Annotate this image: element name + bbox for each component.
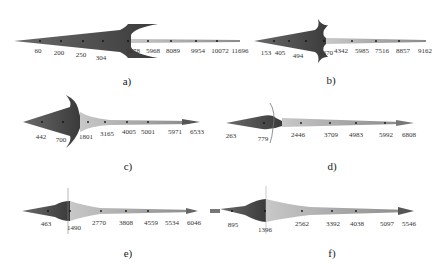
value-label: 10072 [211,47,229,55]
value-label: 463 [41,220,52,228]
value-label: 3165 [100,130,114,138]
value-label: 5678 [126,47,140,55]
value-label: 895 [228,221,239,229]
value-label: 8857 [396,47,410,55]
value-label: 494 [293,52,304,60]
value-label: 700 [56,136,67,144]
value-label: 3392 [326,220,340,228]
panel-caption-d: d) [327,160,336,172]
panel-c-shape [23,95,200,148]
value-label: 60 [35,47,42,55]
value-label: 304 [96,54,107,62]
value-label: 2562 [295,220,309,228]
value-label: 153 [261,49,272,57]
value-label: 1370 [319,49,333,57]
value-label: 3808 [119,219,133,227]
value-label: 7516 [375,47,389,55]
value-label: 9162 [418,47,432,55]
value-label: 5992 [379,131,393,139]
value-label: 8089 [166,47,180,55]
value-label: 4559 [144,219,158,227]
value-label: 5001 [141,128,155,136]
value-label: 5968 [146,47,160,55]
value-label: 779 [258,135,269,143]
value-label: 4005 [122,128,136,136]
value-label: 4983 [349,131,363,139]
value-label: 5985 [355,47,369,55]
value-label: 405 [275,49,286,57]
panel-caption-b: b) [326,74,335,86]
value-label: 5546 [402,220,416,228]
value-label: 442 [36,133,47,141]
value-label: 3709 [324,131,338,139]
value-label: 1801 [79,133,93,141]
value-label: 6533 [190,128,204,136]
value-label: 4342 [334,47,348,55]
value-label: 263 [226,132,237,140]
value-label: 4038 [350,220,364,228]
panel-caption-c: c) [124,160,133,172]
panel-caption-e: e) [124,247,133,259]
panel-caption-a: a) [123,75,132,87]
value-label: 9954 [191,47,205,55]
value-label: 1396 [258,226,272,234]
value-label: 200 [54,49,65,57]
value-label: 1490 [67,224,81,232]
value-label: 250 [76,51,87,59]
value-label: 5971 [168,128,182,136]
value-label: 5534 [165,219,179,227]
value-label: 6808 [402,131,416,139]
value-label: 2770 [92,219,106,227]
value-label: 6046 [187,219,201,227]
value-label: 2446 [291,131,305,139]
panel-caption-f: f) [328,247,335,259]
value-label: 11696 [231,47,248,55]
value-label: 5097 [380,220,394,228]
